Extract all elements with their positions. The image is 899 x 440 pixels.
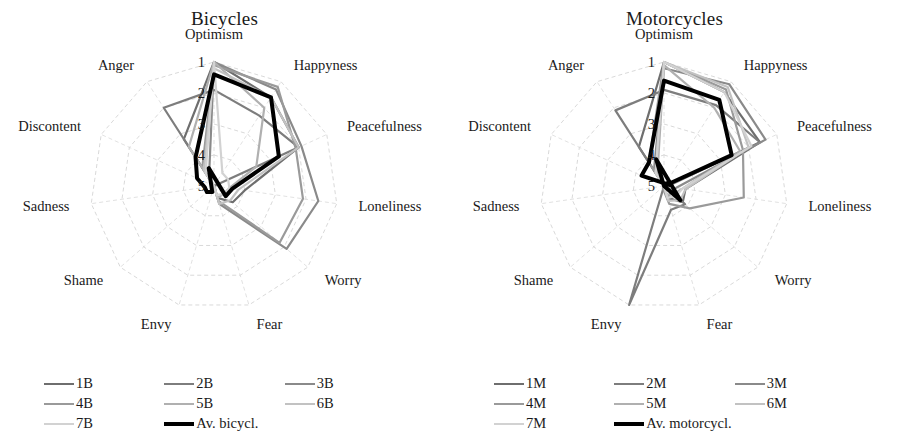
axis-label-envy: Envy <box>141 316 172 332</box>
legend-swatch-line-icon <box>494 383 524 385</box>
legend-label: 4B <box>76 395 93 412</box>
legend-label: 5M <box>646 395 666 412</box>
legend-label: Av. motorcycl. <box>646 415 731 432</box>
legend-item[interactable]: 7M <box>494 415 614 432</box>
legend-item[interactable]: 5M <box>614 395 734 412</box>
legend-swatch-line-icon <box>164 383 194 385</box>
axis-label-optimism: Optimism <box>185 26 244 42</box>
radar-series-group <box>615 62 765 305</box>
legend-swatch-line-icon <box>44 403 74 405</box>
legend-swatch-line-icon <box>44 423 74 425</box>
legend-swatch-line-icon <box>614 383 644 385</box>
legend-label: 3B <box>317 375 334 392</box>
legend-item[interactable]: 2B <box>164 375 284 392</box>
radial-tick-label: 2 <box>198 85 205 101</box>
legend-bicycles: 1B2B3B4B5B6B7BAv. bicycl. <box>0 375 449 432</box>
axis-label-fear: Fear <box>257 316 283 332</box>
legend-label: 5B <box>196 395 213 412</box>
legend-swatch-line-icon <box>735 403 765 405</box>
legend-label: 3M <box>767 375 787 392</box>
legend-swatch-line-icon <box>735 383 765 385</box>
radial-tick-label: 5 <box>198 178 205 194</box>
legend-swatch-line-icon <box>285 403 315 405</box>
radial-tick-label: 3 <box>648 116 655 132</box>
chart-panel-bicycles: Bicycles 12345OptimismHappynessPeacefuln… <box>0 0 449 440</box>
legend-label: Av. bicycl. <box>196 415 258 432</box>
legend-swatch-line-icon <box>285 383 315 385</box>
legend-item[interactable]: Av. motorcycl. <box>614 415 855 432</box>
radial-tick-label: 5 <box>648 178 655 194</box>
axis-label-fear: Fear <box>707 316 733 332</box>
chart-panel-motorcycles: Motorcycles 12345OptimismHappynessPeacef… <box>450 0 899 440</box>
legend-item[interactable]: 7B <box>44 415 164 432</box>
legend-item[interactable]: 5B <box>164 395 284 412</box>
legend-swatch-line-icon <box>164 403 194 405</box>
axis-label-happyness: Happyness <box>294 57 358 73</box>
legend-label: 1M <box>526 375 546 392</box>
legend-swatch-line-icon <box>494 403 524 405</box>
radial-tick-label: 2 <box>648 85 655 101</box>
axis-label-loneliness: Loneliness <box>809 198 872 214</box>
legend-label: 2M <box>646 375 666 392</box>
figure-root: Bicycles 12345OptimismHappynessPeacefuln… <box>0 0 899 440</box>
legend-item[interactable]: 6B <box>285 395 405 412</box>
axis-label-happyness: Happyness <box>744 57 808 73</box>
axis-label-worry: Worry <box>775 272 812 288</box>
radial-tick-label: 1 <box>198 54 205 70</box>
axis-label-shame: Shame <box>514 272 553 288</box>
axis-label-peacefulness: Peacefulness <box>347 118 422 134</box>
radar-chart-bicycles: 12345OptimismHappynessPeacefulnessLoneli… <box>0 26 449 346</box>
radar-series-group <box>164 62 319 249</box>
legend-swatch-line-icon <box>494 423 524 425</box>
grid-spoke <box>214 186 308 267</box>
legend-label: 7B <box>76 415 93 432</box>
axis-label-optimism: Optimism <box>635 26 694 42</box>
legend-label: 6M <box>767 395 787 412</box>
legend-item[interactable]: 4B <box>44 395 164 412</box>
axis-label-shame: Shame <box>64 272 103 288</box>
legend-motorcycles: 1M2M3M4M5M6M7MAv. motorcycl. <box>450 375 899 432</box>
legend-item[interactable]: 4M <box>494 395 614 412</box>
radial-tick-label: 3 <box>198 116 205 132</box>
legend-swatch-line-icon <box>614 403 644 405</box>
legend-swatch-line-icon <box>614 422 644 426</box>
legend-swatch-line-icon <box>44 383 74 385</box>
legend-item[interactable]: Av. bicycl. <box>164 415 405 432</box>
grid-spoke <box>120 186 214 267</box>
axis-label-sadness: Sadness <box>473 198 520 214</box>
legend-swatch-line-icon <box>164 422 194 426</box>
legend-label: 4M <box>526 395 546 412</box>
axis-label-sadness: Sadness <box>23 198 70 214</box>
legend-item[interactable]: 2M <box>614 375 734 392</box>
axis-label-discontent: Discontent <box>468 118 531 134</box>
grid-spoke <box>91 186 214 204</box>
axis-label-loneliness: Loneliness <box>359 198 422 214</box>
grid-spoke <box>541 186 664 204</box>
axis-label-peacefulness: Peacefulness <box>797 118 872 134</box>
legend-item[interactable]: 6M <box>735 395 855 412</box>
legend-item[interactable]: 1B <box>44 375 164 392</box>
legend-grid-bicycles: 1B2B3B4B5B6B7BAv. bicycl. <box>0 375 449 432</box>
legend-grid-motorcycles: 1M2M3M4M5M6M7MAv. motorcycl. <box>450 375 899 432</box>
radial-tick-label: 4 <box>648 147 656 163</box>
legend-label: 1B <box>76 375 93 392</box>
axis-label-anger: Anger <box>98 57 134 73</box>
legend-label: 7M <box>526 415 546 432</box>
axis-label-anger: Anger <box>548 57 584 73</box>
axis-label-discontent: Discontent <box>18 118 81 134</box>
legend-item[interactable]: 1M <box>494 375 614 392</box>
radar-chart-motorcycles: 12345OptimismHappynessPeacefulnessLoneli… <box>450 26 899 346</box>
radial-tick-label: 4 <box>198 147 206 163</box>
legend-label: 6B <box>317 395 334 412</box>
axis-label-worry: Worry <box>325 272 362 288</box>
legend-item[interactable]: 3M <box>735 375 855 392</box>
axis-label-envy: Envy <box>591 316 622 332</box>
legend-item[interactable]: 3B <box>285 375 405 392</box>
legend-label: 2B <box>196 375 213 392</box>
radial-tick-label: 1 <box>648 54 655 70</box>
